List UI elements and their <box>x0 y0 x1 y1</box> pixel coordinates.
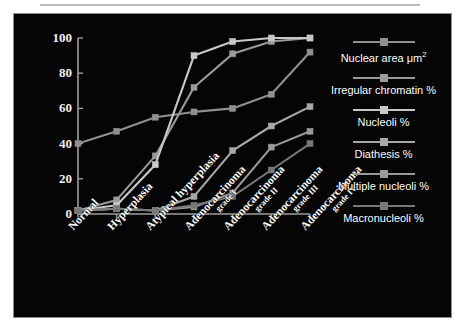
legend-swatch <box>353 136 415 147</box>
x-axis-category-label: Normal <box>66 196 100 232</box>
chart-legend: Nuclear area μm2Irregular chromatin %Nuc… <box>314 36 452 232</box>
legend-swatch <box>353 36 415 47</box>
legend-item[interactable]: Nucleoli % <box>314 104 452 129</box>
legend-item[interactable]: Diathesis % <box>314 136 452 161</box>
legend-marker <box>380 202 388 210</box>
legend-swatch <box>353 200 415 211</box>
chart-panel: 020406080100 NormalHyperplasiaAtypical h… <box>13 13 452 318</box>
legend-item[interactable]: Irregular chromatin % <box>314 72 452 97</box>
legend-item[interactable]: Multiple nucleoli % <box>314 168 452 193</box>
legend-marker <box>380 106 388 114</box>
legend-marker <box>380 38 388 46</box>
legend-label: Irregular chromatin % <box>314 84 452 97</box>
legend-swatch <box>353 72 415 83</box>
x-axis-category-main: Normal <box>66 196 100 232</box>
legend-swatch <box>353 104 415 115</box>
legend-item[interactable]: Nuclear area μm2 <box>314 36 452 65</box>
legend-label: Nucleoli % <box>314 116 452 129</box>
legend-label: Nuclear area μm2 <box>314 48 452 65</box>
legend-marker <box>380 138 388 146</box>
figure-container: 020406080100 NormalHyperplasiaAtypical h… <box>0 0 464 332</box>
legend-item[interactable]: Macronucleoli % <box>314 200 452 225</box>
legend-marker <box>380 170 388 178</box>
legend-label-superscript: 2 <box>422 50 426 59</box>
legend-swatch <box>353 168 415 179</box>
top-rule-divider <box>40 4 420 6</box>
legend-label: Multiple nucleoli % <box>314 180 452 193</box>
legend-label: Macronucleoli % <box>314 212 452 225</box>
legend-marker <box>380 74 388 82</box>
legend-label: Diathesis % <box>314 148 452 161</box>
